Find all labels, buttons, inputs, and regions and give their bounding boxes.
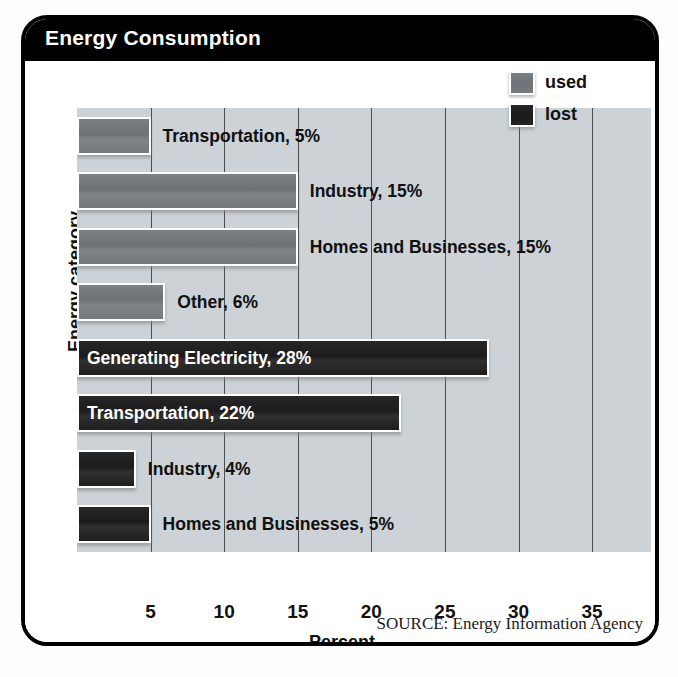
bar-row[interactable]: Homes and Businesses, 15% (77, 228, 651, 266)
x-axis-label: Percent (25, 632, 659, 646)
bar-lost[interactable] (77, 505, 151, 543)
legend-label: used (545, 72, 587, 93)
bar-used[interactable] (77, 228, 298, 266)
bar-row[interactable]: Transportation, 22% (77, 394, 651, 432)
energy-consumption-figure: Energy Consumption Energy category Trans… (0, 0, 678, 677)
bar-value-label: Generating Electricity, 28% (87, 347, 311, 368)
bar-row[interactable]: Other, 6% (77, 283, 651, 321)
title-bar: Energy Consumption (23, 17, 659, 61)
bar-used[interactable] (77, 283, 165, 321)
bar-value-label: Industry, 15% (310, 181, 423, 202)
bar-value-label: Homes and Businesses, 5% (163, 514, 394, 535)
x-tick-label-10: 10 (204, 601, 244, 623)
page-title: Energy Consumption (45, 26, 261, 50)
legend-label: lost (545, 104, 577, 125)
bar-row[interactable]: Industry, 4% (77, 450, 651, 488)
bar-value-label: Transportation, 5% (163, 125, 321, 146)
bar-row[interactable]: Generating Electricity, 28% (77, 339, 651, 377)
figure-frame: Energy Consumption Energy category Trans… (21, 15, 659, 646)
black-swatch-icon (509, 103, 535, 127)
x-tick-label-5: 5 (131, 601, 171, 623)
bar-value-label: Other, 6% (177, 292, 258, 313)
bar-value-label: Homes and Businesses, 15% (310, 236, 551, 257)
x-tick-label-15: 15 (278, 601, 318, 623)
source-note: SOURCE: Energy Information Agency (377, 614, 643, 634)
bar-row[interactable]: Industry, 15% (77, 172, 651, 210)
bar-used[interactable] (77, 117, 151, 155)
plot-area: Transportation, 5%Industry, 15%Homes and… (77, 108, 651, 552)
bar-lost[interactable] (77, 450, 136, 488)
bar-row[interactable]: Homes and Businesses, 5% (77, 505, 651, 543)
gray-swatch-icon (509, 71, 535, 95)
chart-card: Energy category Transportation, 5%Indust… (25, 61, 659, 646)
bar-used[interactable] (77, 172, 298, 210)
bar-value-label: Industry, 4% (148, 458, 251, 479)
bar-value-label: Transportation, 22% (87, 403, 254, 424)
